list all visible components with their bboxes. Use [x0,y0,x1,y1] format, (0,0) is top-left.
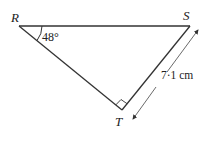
vertex-label-r: R [10,10,19,25]
vertex-label-t: T [115,114,123,129]
dimension-arrow [167,30,198,72]
angle-label: 48° [42,30,59,44]
side-length-label: 7·1 cm [161,69,193,81]
triangle-diagram: R S T 48° 7·1 cm [0,0,210,150]
side-rt [19,26,122,110]
side-st [122,26,190,110]
vertex-label-s: S [183,8,190,23]
right-angle-marker [116,100,127,105]
